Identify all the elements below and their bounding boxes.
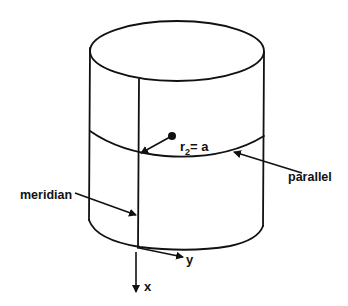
parallel-label: parallel [288, 170, 332, 184]
meridian-pointer-arrow [75, 193, 136, 215]
radius-arrow [141, 137, 170, 153]
cylinder-top-ellipse [90, 21, 264, 81]
cylinder-diagram: r2= a parallel meridian x y [0, 0, 348, 306]
radius-center-dot [168, 132, 176, 140]
cylinder-left-wall [89, 48, 90, 220]
meridian-label: meridian [20, 188, 72, 202]
cylinder-bottom-curve [89, 220, 263, 250]
radius-label: r2= a [180, 139, 209, 157]
x-axis-label: x [144, 279, 152, 294]
cylinder-right-wall [263, 52, 264, 226]
meridian-line [138, 79, 139, 248]
diagram-svg: r2= a parallel meridian x y [0, 0, 348, 306]
y-axis-label: y [186, 252, 194, 267]
